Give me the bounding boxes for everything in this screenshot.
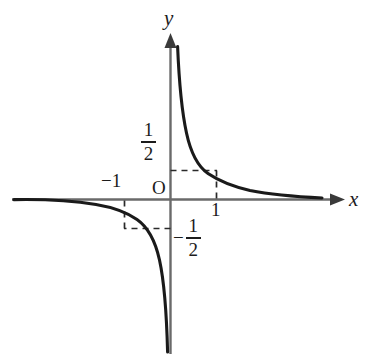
fraction-denominator: 2 [186, 240, 200, 260]
graph-figure: y x O −1 1 1 2 − 1 2 [0, 0, 365, 354]
fraction-numerator: 1 [186, 216, 200, 236]
fraction-minus-sign: − [173, 228, 184, 247]
curve-left-branch [14, 200, 168, 352]
fraction-stack: 1 2 [186, 216, 201, 259]
fraction-stack: 1 2 [141, 120, 156, 163]
origin-label: O [152, 178, 166, 197]
x-axis-label: x [349, 189, 358, 210]
coordinate-plot [0, 0, 365, 354]
x-tick-label-positive-one: 1 [211, 200, 221, 219]
x-tick-label-negative-one: −1 [101, 171, 121, 190]
fraction-denominator: 2 [142, 144, 156, 164]
y-tick-label-negative-one-half: − 1 2 [173, 216, 201, 259]
curve-right-branch [178, 47, 322, 199]
y-tick-label-one-half: 1 2 [141, 120, 156, 163]
fraction-numerator: 1 [142, 120, 156, 140]
x-axis-arrow-icon [330, 194, 345, 206]
y-axis-label: y [164, 8, 173, 29]
y-axis-arrow-icon [165, 33, 177, 48]
